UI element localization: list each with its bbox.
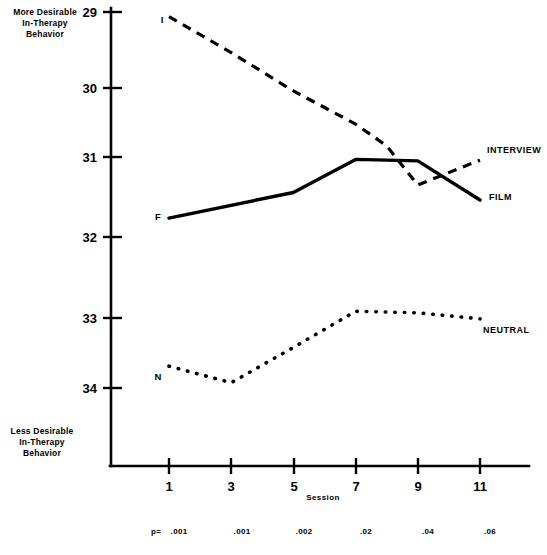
y-bottom-caption-line3: Behavior: [23, 448, 61, 458]
neutral-dotted-line: [169, 311, 480, 382]
legend-label-interview: INTERVIEW: [487, 145, 541, 155]
x-tick-label-9: 9: [414, 479, 421, 494]
p-value-session-3: .001: [234, 527, 251, 536]
line-chart-svg: 29 30 31 32 33 34 1 3 5 7 9 11 Session: [0, 0, 547, 555]
y-top-caption-line3: Behavior: [26, 29, 64, 39]
y-tick-label-29: 29: [83, 5, 97, 20]
y-tick-label-32: 32: [83, 230, 97, 245]
x-tick-labels: 1 3 5 7 9 11: [165, 479, 486, 494]
y-tick-label-31: 31: [83, 150, 97, 165]
y-tick-label-33: 33: [83, 311, 97, 326]
p-value-row: p= .001 .001 .002 .02 .04 .06: [151, 527, 496, 536]
x-tick-label-11: 11: [473, 479, 487, 494]
marker-interview-i: I: [161, 14, 164, 25]
y-tick-label-30: 30: [83, 81, 97, 96]
y-axis-top-caption: More Desirable In-Therapy Behavior: [13, 7, 77, 39]
x-tick-label-3: 3: [227, 479, 234, 494]
p-value-session-7: .02: [360, 527, 372, 536]
p-value-session-5: .002: [296, 527, 313, 536]
legend-label-neutral: NEUTRAL: [483, 325, 530, 335]
legend-label-film: FILM: [489, 192, 512, 202]
y-tick-label-34: 34: [83, 381, 98, 396]
x-tick-label-7: 7: [352, 479, 359, 494]
chart-figure: 29 30 31 32 33 34 1 3 5 7 9 11 Session: [0, 0, 547, 555]
p-value-session-11: .06: [484, 527, 496, 536]
p-value-prefix: p=: [151, 527, 161, 536]
marker-film-f: F: [155, 211, 161, 222]
film-solid-line: [169, 159, 480, 218]
x-axis-title: Session: [306, 493, 339, 502]
y-bottom-caption-line1: Less Desirable: [11, 426, 74, 436]
y-tick-marks: [103, 12, 122, 388]
p-value-session-9: .04: [422, 527, 434, 536]
y-top-caption-line1: More Desirable: [13, 7, 77, 17]
series-neutral: [169, 311, 480, 382]
y-top-caption-line2: In-Therapy: [22, 18, 68, 28]
y-bottom-caption-line2: In-Therapy: [19, 437, 65, 447]
x-tick-label-1: 1: [165, 479, 172, 494]
series-film: [169, 159, 480, 218]
y-tick-labels: 29 30 31 32 33 34: [83, 5, 98, 396]
y-axis-bottom-caption: Less Desirable In-Therapy Behavior: [11, 426, 74, 458]
p-value-session-1: .001: [171, 527, 188, 536]
interview-dashed-line: [169, 17, 480, 185]
x-tick-label-5: 5: [290, 479, 297, 494]
marker-neutral-n: N: [155, 371, 162, 382]
series-interview: [169, 17, 480, 185]
axes-group: [110, 8, 529, 466]
